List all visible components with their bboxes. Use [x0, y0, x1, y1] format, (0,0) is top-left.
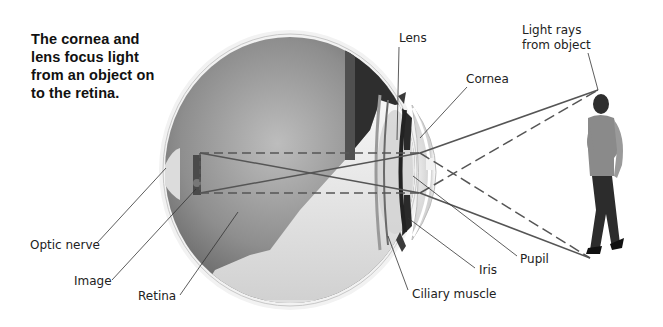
label-cornea: Cornea	[466, 72, 509, 86]
caption: The cornea and lens focus light from an …	[31, 30, 171, 102]
label-light-rays-line2: from object	[522, 38, 591, 52]
label-retina: Retina	[138, 289, 176, 303]
label-iris: Iris	[479, 263, 497, 277]
label-image: Image	[74, 274, 112, 288]
label-lens: Lens	[399, 31, 427, 45]
label-pupil: Pupil	[520, 252, 549, 266]
label-optic-nerve: Optic nerve	[30, 238, 100, 252]
label-light-rays-line1: Light rays	[522, 23, 581, 37]
eye-diagram: The cornea and lens focus light from an …	[0, 0, 663, 327]
label-ciliary-muscle: Ciliary muscle	[412, 287, 496, 301]
person-object	[586, 94, 624, 254]
